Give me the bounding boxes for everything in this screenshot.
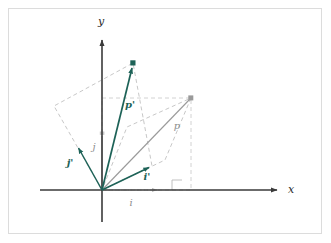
vector-j-prime-line: [79, 148, 103, 190]
dashed-shapes-group: [54, 63, 191, 190]
vector-p-prime-line: [102, 68, 132, 190]
vector-label-j: j: [90, 141, 95, 152]
vector-diagram-canvas: y x i j p i' j' p': [0, 0, 331, 243]
vector-label-i: i: [129, 197, 132, 208]
vector-label-j-prime: j': [65, 157, 74, 168]
vector-label-p-prime: p': [125, 99, 135, 110]
transformed-vectors-group: [79, 60, 150, 190]
x-axis-label: x: [288, 183, 295, 196]
labels-group: y x i j p i' j' p': [65, 15, 295, 208]
point-marker-p-prime: [130, 60, 135, 65]
figure-root: y x i j p i' j' p': [0, 0, 331, 243]
vector-label-i-prime: i': [144, 171, 151, 182]
point-marker-p: [188, 95, 193, 100]
y-axis-label: y: [97, 15, 105, 28]
right-angle-marker: [172, 180, 182, 190]
rotated-parallelogram: [54, 63, 152, 190]
vector-label-p: p: [174, 120, 181, 131]
vector-i-prime-line: [102, 168, 149, 191]
